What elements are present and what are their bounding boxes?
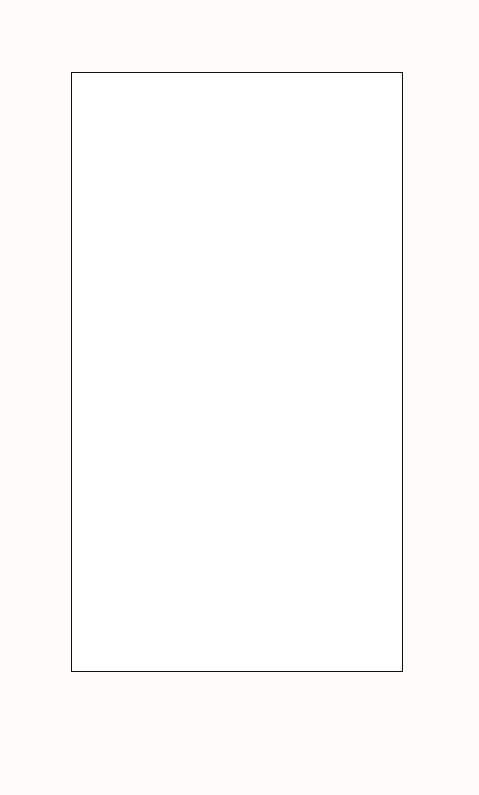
rotated-chart-canvas — [25, 28, 455, 768]
power-curves — [72, 73, 402, 671]
chart-page — [0, 0, 479, 795]
plot-area — [71, 72, 403, 672]
